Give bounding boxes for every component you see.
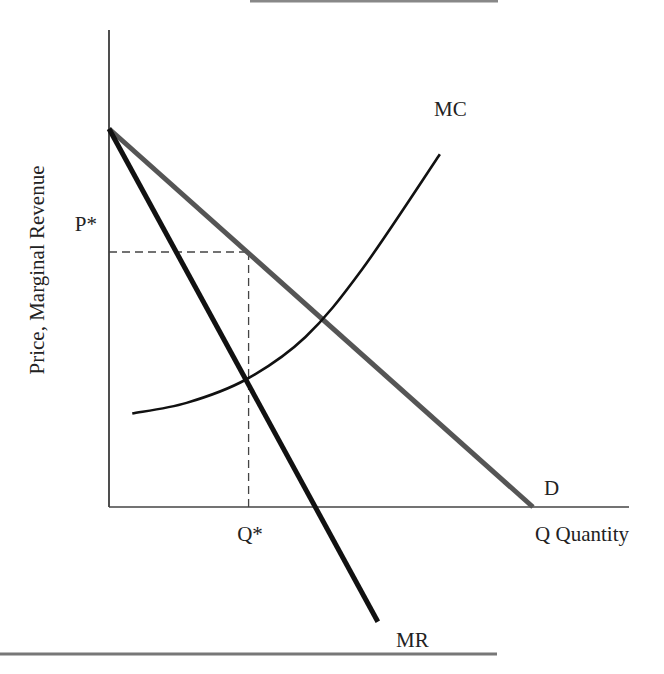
mr-curve xyxy=(109,129,378,622)
p-star-label: P* xyxy=(75,212,97,236)
d-curve-label: D xyxy=(544,476,559,500)
d-curve xyxy=(109,129,533,507)
q-star-label: Q* xyxy=(237,522,263,546)
monopoly-pricing-chart: Price, Marginal Revenue Q Quantity P* Q*… xyxy=(0,0,664,674)
y-axis-label: Price, Marginal Revenue xyxy=(25,166,49,375)
x-axis-label: Q Quantity xyxy=(535,522,629,546)
mc-curve-label: MC xyxy=(434,97,467,121)
mr-curve-label: MR xyxy=(396,628,429,652)
